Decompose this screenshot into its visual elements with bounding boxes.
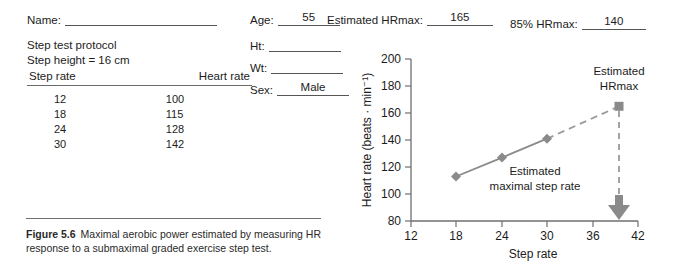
field-name-rule[interactable] xyxy=(65,12,217,26)
data-point-marker xyxy=(451,172,461,182)
est-hrmax-annotation-line2: HRmax xyxy=(600,80,639,92)
x-tick-label: 24 xyxy=(495,229,509,243)
field-sex-value: Male xyxy=(301,82,326,93)
hrmax-marker xyxy=(615,102,624,111)
x-tick-label: 12 xyxy=(404,229,418,243)
field-wt-rule[interactable] xyxy=(271,60,343,74)
est-hrmax-annotation-line1: Estimated xyxy=(593,65,644,77)
caption-divider xyxy=(26,218,321,219)
field-sex-label: Sex: xyxy=(250,84,277,96)
field-est-hrmax[interactable]: Estimated HRmax: 165 xyxy=(327,12,493,26)
field-sex-rule[interactable]: Male xyxy=(277,82,349,96)
table-row: 24 128 xyxy=(27,121,252,136)
figure-caption: Figure 5.6Maximal aerobic power estimate… xyxy=(26,228,346,255)
field-ht-rule[interactable] xyxy=(269,38,341,52)
step-test-table: Step rate Heart rate 12 100 18 115 24 12… xyxy=(27,70,252,151)
field-est-hrmax-value: 165 xyxy=(450,12,469,23)
y-axis-title: Heart rate (beats · min⁻¹) xyxy=(360,73,374,207)
field-age-label: Age: xyxy=(250,14,278,26)
est-max-step-rate-line1: Estimated xyxy=(509,165,560,177)
y-axis-ticks xyxy=(405,59,411,221)
cell-heart-rate: 115 xyxy=(156,107,252,121)
cell-heart-rate: 100 xyxy=(156,92,252,106)
cell-step-rate: 30 xyxy=(27,137,156,151)
table-body: 12 100 18 115 24 128 30 142 xyxy=(27,86,252,151)
y-tick-label: 100 xyxy=(381,187,401,201)
protocol-line-2: Step height = 16 cm xyxy=(27,53,130,68)
table-header-row: Step rate Heart rate xyxy=(27,70,252,85)
hr-vs-step-rate-chart: 200 180 160 140 120 100 80 12 18 24 30 3… xyxy=(355,45,670,263)
field-age-value: 55 xyxy=(302,12,315,23)
field-85pct-hrmax-rule[interactable]: 140 xyxy=(582,16,646,30)
x-axis-tick-labels: 12 18 24 30 36 42 xyxy=(404,229,645,243)
cell-step-rate: 18 xyxy=(27,107,156,121)
column-header-step-rate: Step rate xyxy=(29,70,76,82)
field-name[interactable]: Name: xyxy=(27,12,217,26)
field-85pct-hrmax[interactable]: 85% HRmax: 140 xyxy=(510,16,646,30)
est-max-step-rate-annotation: Estimated maximal step rate xyxy=(490,165,581,192)
cell-step-rate: 12 xyxy=(27,92,156,106)
chart-svg: 200 180 160 140 120 100 80 12 18 24 30 3… xyxy=(355,45,670,263)
y-tick-label: 200 xyxy=(381,52,401,66)
field-name-label: Name: xyxy=(27,14,65,26)
cell-step-rate: 24 xyxy=(27,122,156,136)
x-axis-ticks xyxy=(411,221,638,227)
field-85pct-hrmax-label: 85% HRmax: xyxy=(510,18,582,30)
cell-heart-rate: 128 xyxy=(156,122,252,136)
y-tick-label: 180 xyxy=(381,79,401,93)
extrapolation-line xyxy=(547,106,619,138)
y-axis-tick-labels: 200 180 160 140 120 100 80 xyxy=(381,52,401,228)
est-hrmax-annotation: Estimated HRmax xyxy=(593,65,644,92)
data-point-marker xyxy=(542,134,552,144)
figure-number: Figure 5.6 xyxy=(26,228,76,240)
x-tick-label: 42 xyxy=(631,229,645,243)
field-sex[interactable]: Sex: Male xyxy=(250,82,349,96)
table-row: 12 100 xyxy=(27,91,252,106)
y-tick-label: 160 xyxy=(381,106,401,120)
field-wt-label: Wt: xyxy=(250,62,271,74)
y-tick-label: 80 xyxy=(388,214,402,228)
table-row: 30 142 xyxy=(27,136,252,151)
x-axis-title: Step rate xyxy=(509,247,558,261)
field-ht-label: Ht: xyxy=(250,40,269,52)
protocol-line-1: Step test protocol xyxy=(27,38,117,53)
x-tick-label: 30 xyxy=(540,229,554,243)
y-tick-label: 120 xyxy=(381,160,401,174)
down-arrow-icon xyxy=(608,195,630,220)
cell-heart-rate: 142 xyxy=(156,137,252,151)
field-wt[interactable]: Wt: xyxy=(250,60,343,74)
field-ht[interactable]: Ht: xyxy=(250,38,341,52)
x-tick-label: 18 xyxy=(449,229,463,243)
table-row: 18 115 xyxy=(27,106,252,121)
column-header-heart-rate: Heart rate xyxy=(199,70,250,82)
field-est-hrmax-label: Estimated HRmax: xyxy=(327,14,427,26)
field-est-hrmax-rule[interactable]: 165 xyxy=(427,12,493,26)
y-tick-label: 140 xyxy=(381,133,401,147)
data-point-marker xyxy=(497,153,507,163)
field-85pct-hrmax-value: 140 xyxy=(604,16,623,27)
x-tick-label: 36 xyxy=(586,229,600,243)
est-max-step-rate-line2: maximal step rate xyxy=(490,180,581,192)
